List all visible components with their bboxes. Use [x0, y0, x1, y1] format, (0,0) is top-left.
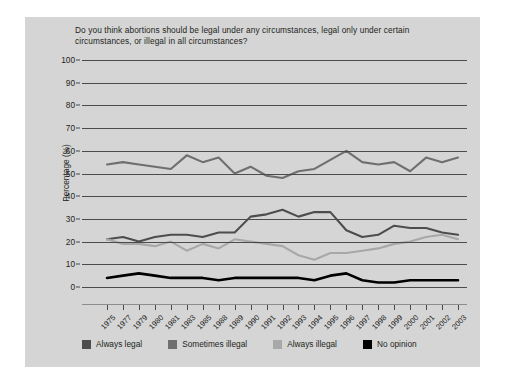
x-axis-label: 2003	[450, 313, 468, 331]
series-line	[107, 210, 458, 242]
x-axis-tick	[107, 305, 108, 310]
x-axis-label: 1977	[115, 313, 133, 331]
x-axis-label: 1989	[227, 313, 245, 331]
y-axis-tick	[76, 105, 80, 106]
y-axis-label: 40	[66, 191, 75, 201]
x-axis-tick	[426, 305, 427, 310]
x-axis-tick	[283, 305, 284, 310]
gridline	[82, 60, 467, 61]
legend-label: Always legal	[96, 339, 142, 349]
x-axis-label: 1988	[211, 313, 229, 331]
x-axis-tick	[235, 305, 236, 310]
legend-swatch-icon	[168, 340, 177, 349]
legend-swatch-icon	[363, 340, 372, 349]
legend-label: No opinion	[377, 339, 417, 349]
y-axis-label: 80	[66, 100, 75, 110]
x-axis-label: 1985	[195, 313, 213, 331]
legend-swatch-icon	[273, 340, 282, 349]
gridline	[82, 196, 467, 197]
x-axis-label: 2000	[402, 313, 420, 331]
x-axis-label: 1992	[275, 313, 293, 331]
y-axis-label: 10	[66, 259, 75, 269]
x-axis-tick	[251, 305, 252, 310]
y-axis-label: 20	[66, 237, 75, 247]
gridline	[82, 128, 467, 129]
x-axis-tick	[123, 305, 124, 310]
x-axis-tick	[155, 305, 156, 310]
x-axis-tick	[314, 305, 315, 310]
x-axis-label: 1991	[259, 313, 277, 331]
y-axis-label: 0	[70, 282, 75, 292]
x-axis-tick	[203, 305, 204, 310]
legend-swatch-icon	[82, 340, 91, 349]
y-axis-tick	[76, 150, 80, 151]
x-axis-label: 2001	[418, 313, 436, 331]
legend-item: Always illegal	[273, 339, 337, 349]
y-axis-tick	[76, 218, 80, 219]
x-axis-tick	[267, 305, 268, 310]
y-axis-label: 100	[61, 55, 75, 65]
x-axis-tick	[346, 305, 347, 310]
x-axis-tick	[410, 305, 411, 310]
x-axis-tick	[171, 305, 172, 310]
x-axis-label: 1994	[306, 313, 324, 331]
series-line	[107, 235, 458, 260]
x-axis-tick	[458, 305, 459, 310]
legend-label: Sometimes illegal	[182, 339, 247, 349]
x-axis-label: 1981	[163, 313, 181, 331]
x-axis-tick	[187, 305, 188, 310]
x-axis-label: 1990	[243, 313, 261, 331]
legend-item: No opinion	[363, 339, 417, 349]
x-axis-tick	[442, 305, 443, 310]
x-axis-label: 1995	[322, 313, 340, 331]
y-axis-tick	[76, 173, 80, 174]
x-axis-label: 1983	[179, 313, 197, 331]
y-axis-tick	[76, 60, 80, 61]
y-axis-tick	[76, 196, 80, 197]
y-axis-label: 50	[66, 169, 75, 179]
gridline	[82, 264, 467, 265]
x-axis-label: 1999	[386, 313, 404, 331]
x-axis-tick	[330, 305, 331, 310]
gridline	[82, 83, 467, 84]
chart-question-title: Do you think abortions should be legal u…	[75, 25, 435, 47]
legend-label: Always illegal	[287, 339, 337, 349]
y-axis-tick	[76, 128, 80, 129]
x-axis-label: 1980	[147, 313, 165, 331]
legend-item: Sometimes illegal	[168, 339, 247, 349]
x-axis-tick	[362, 305, 363, 310]
series-line	[107, 273, 458, 282]
x-axis-label: 2002	[434, 313, 452, 331]
gridline	[82, 174, 467, 175]
chart-legend: Always legalSometimes illegalAlways ille…	[82, 339, 443, 349]
chart-panel: Do you think abortions should be legal u…	[25, 17, 480, 367]
gridline	[82, 151, 467, 152]
legend-item: Always legal	[82, 339, 142, 349]
x-axis-tick	[139, 305, 140, 310]
y-axis-tick	[76, 287, 80, 288]
x-axis-label: 1975	[99, 313, 117, 331]
gridline	[82, 242, 467, 243]
gridline	[82, 219, 467, 220]
x-axis-tick	[378, 305, 379, 310]
plot-area: Percentage (%) 1009080706050403020100	[82, 60, 467, 287]
gridline	[82, 287, 467, 288]
y-axis-tick	[76, 264, 80, 265]
y-axis-tick	[76, 82, 80, 83]
y-axis-label: 70	[66, 123, 75, 133]
x-axis-label: 1997	[354, 313, 372, 331]
x-axis-label: 1996	[338, 313, 356, 331]
x-axis-label: 1979	[131, 313, 149, 331]
y-axis-label: 30	[66, 214, 75, 224]
x-axis-tick	[298, 305, 299, 310]
gridline	[82, 105, 467, 106]
y-axis-label: 60	[66, 146, 75, 156]
x-axis-tick	[219, 305, 220, 310]
x-axis-tick	[394, 305, 395, 310]
y-axis-label: 90	[66, 78, 75, 88]
x-axis-label: 1998	[370, 313, 388, 331]
y-axis-tick	[76, 241, 80, 242]
x-axis-label: 1993	[290, 313, 308, 331]
